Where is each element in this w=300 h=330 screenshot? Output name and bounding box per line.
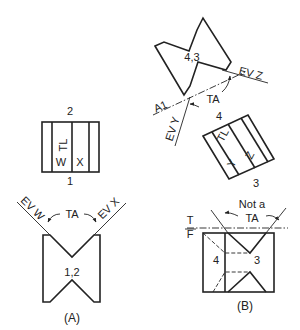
label-1: 1 xyxy=(67,175,73,187)
label-y: Y xyxy=(224,156,238,169)
orthographic-projection-diagram: 2 1 TL W X 1,2 EV W EV X TA (A) 4,3 xyxy=(0,0,300,330)
figure-b: 4,3 A1 EV Z EV Y TA 4 3 TL Y Z Not a TA xyxy=(152,18,288,313)
label-1-2: 1,2 xyxy=(64,266,79,278)
label-3: 3 xyxy=(253,177,259,189)
figure-b-aux-view: 4,3 xyxy=(155,18,231,95)
figure-a-top-view: 2 1 TL W X xyxy=(42,105,99,187)
figure-b-top-view: 4 3 TL Y Z xyxy=(203,110,274,189)
label-t: T xyxy=(187,214,194,226)
label-3-front: 3 xyxy=(254,254,260,266)
label-2: 2 xyxy=(67,105,73,117)
label-not-a: Not a xyxy=(239,198,266,210)
label-4: 4 xyxy=(216,110,222,122)
caption-a: (A) xyxy=(64,311,80,325)
label-not-ta: TA xyxy=(245,212,259,224)
figure-a: 2 1 TL W X 1,2 EV W EV X TA (A) xyxy=(17,105,126,325)
label-x: X xyxy=(76,156,84,168)
label-ev-x: EV X xyxy=(95,195,122,222)
label-w: W xyxy=(56,156,67,168)
figure-a-front-view: 1,2 EV W EV X TA xyxy=(17,194,126,302)
figure-b-front-view: 4 3 xyxy=(203,233,274,292)
label-a1: A1 xyxy=(152,98,169,115)
label-f: F xyxy=(187,228,194,240)
label-ta: TA xyxy=(65,208,79,220)
label-ev-y: EV Y xyxy=(163,114,182,142)
label-4-3: 4,3 xyxy=(184,51,199,63)
caption-b: (B) xyxy=(237,299,253,313)
label-z: Z xyxy=(243,149,257,161)
label-ev-z: EV Z xyxy=(238,64,265,82)
label-4-front: 4 xyxy=(213,254,219,266)
label-ta-aux: TA xyxy=(206,93,220,105)
label-tl: TL xyxy=(57,139,69,152)
